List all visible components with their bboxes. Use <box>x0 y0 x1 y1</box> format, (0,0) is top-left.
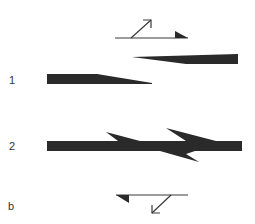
lower-barb <box>160 151 199 162</box>
bar-body <box>47 141 242 151</box>
diagonal-arrow-shaft <box>131 20 151 38</box>
motion-symbol-upper <box>115 20 188 38</box>
upper-wedge <box>132 54 238 64</box>
panel-label-b: b <box>8 200 14 212</box>
lower-wedge <box>47 74 152 84</box>
merged-bar <box>47 128 242 162</box>
diagram-canvas: 1 2 b <box>0 0 255 224</box>
row-label-1: 1 <box>9 74 15 86</box>
upper-barb-right <box>166 128 216 141</box>
diagonal-arrow-shaft <box>152 195 171 213</box>
upper-barb-left <box>106 132 140 141</box>
row-label-2: 2 <box>9 140 15 152</box>
half-arrowhead-right-icon <box>175 31 188 38</box>
half-arrowhead-left-icon <box>116 195 129 203</box>
motion-symbol-lower <box>116 195 188 213</box>
